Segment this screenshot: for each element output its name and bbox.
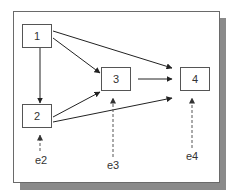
error-term-e4: e4 xyxy=(186,150,198,162)
error-term-e2: e2 xyxy=(35,154,47,166)
error-term-e3: e3 xyxy=(107,159,119,171)
edge-2-3 xyxy=(53,92,100,117)
node-3: 3 xyxy=(101,67,131,91)
node-4: 4 xyxy=(180,67,210,91)
edge-1-4 xyxy=(53,31,172,68)
node-2: 2 xyxy=(22,104,52,128)
node-1: 1 xyxy=(22,24,52,48)
